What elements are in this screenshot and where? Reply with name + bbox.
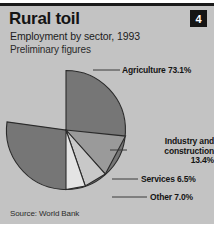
pie-label-services: Services 6.5% xyxy=(141,175,196,185)
infographic-pie-chart-card: Rural toil Employment by sector, 1993 Pr… xyxy=(0,0,224,234)
pie-label-agriculture: Agriculture 73.1% xyxy=(122,66,191,76)
pie-label-other: Other 7.0% xyxy=(150,193,193,203)
source-attribution: Source: World Bank xyxy=(10,209,79,218)
right-white-margin xyxy=(214,0,224,234)
pie-label-industry-line3: 13.4% xyxy=(130,156,214,166)
bottom-white-margin xyxy=(0,224,224,234)
pie-label-industry-construction: Industry and construction 13.4% xyxy=(130,137,214,166)
